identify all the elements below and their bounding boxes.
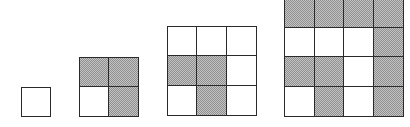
- empty-cell: [344, 28, 374, 58]
- empty-cell: [315, 28, 345, 58]
- empty-cell: [285, 87, 315, 117]
- empty-cell: [227, 56, 256, 85]
- grid-3x3: [167, 26, 257, 116]
- empty-cell: [22, 88, 50, 116]
- empty-cell: [168, 27, 197, 56]
- empty-cell: [344, 57, 374, 87]
- shaded-cell: [344, 0, 374, 28]
- shaded-cell: [197, 86, 226, 115]
- grid-4x4: [284, 0, 404, 117]
- shaded-cell: [168, 56, 197, 85]
- shaded-cell: [315, 87, 345, 117]
- empty-cell: [285, 28, 315, 58]
- empty-cell: [197, 27, 226, 56]
- empty-cell: [168, 86, 197, 115]
- shaded-cell: [285, 57, 315, 87]
- shaded-cell: [374, 87, 404, 117]
- shaded-cell: [109, 87, 138, 116]
- empty-cell: [344, 87, 374, 117]
- empty-cell: [227, 86, 256, 115]
- shaded-cell: [285, 0, 315, 28]
- shaded-cell: [374, 0, 404, 28]
- shaded-cell: [109, 58, 138, 87]
- shaded-cell: [315, 57, 345, 87]
- empty-cell: [80, 87, 109, 116]
- shaded-cell: [80, 58, 109, 87]
- empty-cell: [227, 27, 256, 56]
- shaded-cell: [315, 0, 345, 28]
- shaded-cell: [374, 57, 404, 87]
- shaded-cell: [374, 28, 404, 58]
- shaded-cell: [197, 56, 226, 85]
- grid-1x1: [21, 87, 51, 117]
- grid-2x2: [79, 57, 139, 117]
